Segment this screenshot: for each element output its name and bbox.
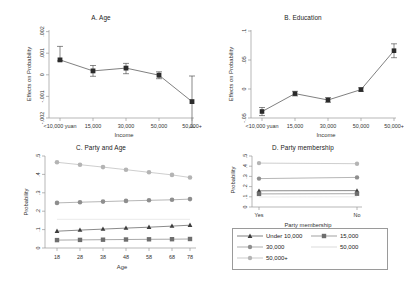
panel-d-xticks: Yes No — [255, 207, 361, 218]
figure-panel-grid: A. Age .002 .001 0 -.001 -.002 Effects o… — [0, 0, 404, 291]
panel-d-ytick-2: .2 — [242, 184, 248, 189]
panel-d-ytick-0: 0 — [242, 206, 248, 209]
legend-label-30000: 30,000 — [266, 244, 284, 250]
panel-a-xticks: <10,000 yuan 15,000 30,000 50,000 50,000… — [44, 118, 202, 129]
panel-b-ytick-0: -.05 — [241, 113, 247, 122]
panel-c-xtick-6: 78 — [187, 254, 193, 260]
panel-a-ylabel: Effects on Probability — [26, 47, 32, 101]
panel-b-xtick-4: 50,000+ — [384, 123, 404, 129]
panel-b-xticks: <10,000 yuan 15,000 30,000 50,000 50,000… — [246, 118, 404, 129]
panel-a-xtick-3: 50,000 — [151, 123, 168, 129]
legend-item-50000[interactable]: 50,000 — [311, 243, 383, 251]
panel-a-xtick-1: 15,000 — [85, 123, 102, 129]
panel-d-ytick-5: .5 — [242, 154, 248, 159]
legend-item-50000-plus[interactable]: 50,000+ — [237, 254, 309, 262]
panel-a-ytick-2: 0 — [39, 73, 45, 76]
panel-d-series-15000 — [257, 192, 359, 197]
panel-b-plot: .1 .05 0 -.05 Effects on Probability — [202, 14, 404, 142]
panel-c-series-15000 — [55, 237, 192, 243]
panel-b-yticks: .1 .05 0 -.05 — [241, 29, 251, 123]
legend-item-15000[interactable]: 15,000 — [311, 232, 383, 240]
panel-b-xtick-1: 15,000 — [287, 123, 304, 129]
panel-b-xtick-0: <10,000 yuan — [246, 123, 279, 129]
panel-d-series-50000plus — [257, 161, 359, 166]
legend-label-15000: 15,000 — [340, 233, 358, 239]
panel-c-ytick-4: .4 — [35, 172, 41, 177]
panel-b-xlabel: Income — [316, 132, 335, 138]
panel-c-xtick-4: 58 — [146, 254, 152, 260]
panel-b-errorbars — [259, 44, 397, 116]
panel-c-ytick-1: .1 — [35, 227, 41, 232]
legend-swatch-triangle-icon — [237, 232, 263, 240]
panel-a-ytick-1: -.001 — [39, 90, 45, 102]
panel-c-xticks: 18 28 38 48 58 68 78 — [54, 248, 193, 260]
panel-c-xtick-5: 68 — [169, 254, 175, 260]
legend-label-under-10000: Under 10,000 — [266, 233, 302, 239]
legend-item-under-10000[interactable]: Under 10,000 — [237, 232, 309, 240]
panel-d-party-membership: D. Party membership .5 .4 .3 .2 .1 0 Pro… — [202, 144, 404, 229]
panel-a-xtick-4: 50,000+ — [182, 123, 202, 129]
panel-c-xtick-1: 28 — [77, 254, 83, 260]
panel-b-ytick-3: .1 — [241, 29, 247, 34]
panel-d-ytick-1: .1 — [242, 195, 248, 200]
panel-a-age: A. Age .002 .001 0 -.001 -.002 Effects o… — [0, 14, 202, 142]
panel-c-plot: .5 .4 .3 .2 .1 0 Probability — [0, 144, 202, 286]
panel-b-xtick-3: 50,000 — [353, 123, 370, 129]
legend-swatch-plain-line-icon — [311, 243, 337, 251]
panel-a-xlabel: Income — [114, 132, 133, 138]
panel-c-xlabel: Age — [117, 264, 127, 270]
panel-d-xtick-0: Yes — [255, 212, 264, 218]
panel-c-ytick-2: .2 — [35, 209, 41, 214]
legend-label-50000-plus: 50,000+ — [266, 255, 288, 261]
panel-d-plot: .5 .4 .3 .2 .1 0 Probability — [202, 144, 404, 229]
panel-a-yticks: .002 .001 0 -.001 -.002 — [39, 26, 49, 124]
legend-item-30000[interactable]: 30,000 — [237, 243, 309, 251]
panel-c-xtick-3: 48 — [123, 254, 129, 260]
panel-c-ytick-3: .3 — [35, 191, 41, 196]
legend-swatch-light-circle-icon — [237, 254, 263, 262]
panel-c-ylabel: Probability — [23, 188, 29, 215]
panel-d-series-30000 — [257, 175, 359, 181]
panel-c-series-30000 — [55, 197, 193, 205]
panel-c-series-50000plus — [55, 160, 193, 180]
panel-c-yticks: .5 .4 .3 .2 .1 0 — [35, 154, 45, 250]
panel-d-ytick-4: .4 — [242, 164, 248, 169]
panel-a-plot: .002 .001 0 -.001 -.002 Effects on Proba… — [0, 14, 202, 142]
panel-b-ytick-1: 0 — [241, 88, 247, 91]
panel-b-markers — [260, 48, 397, 113]
panel-a-errorbars — [57, 46, 195, 127]
panel-b-ylabel: Effects on Probability — [228, 47, 234, 101]
panel-c-ytick-5: .5 — [35, 154, 41, 159]
panel-c-title: C. Party and Age — [0, 144, 202, 151]
panel-d-ytick-3: .3 — [242, 174, 248, 179]
panel-a-ytick-3: .001 — [39, 48, 45, 59]
legend-label-50000: 50,000 — [340, 244, 358, 250]
panel-b-xtick-2: 30,000 — [320, 123, 337, 129]
panel-c-xtick-0: 18 — [54, 254, 60, 260]
legend: Under 10,000 15,000 30,000 — [232, 228, 388, 270]
panel-a-title: A. Age — [0, 14, 202, 21]
panel-d-yticks: .5 .4 .3 .2 .1 0 — [242, 154, 252, 209]
panel-a-xtick-2: 30,000 — [118, 123, 135, 129]
panel-d-xtick-1: No — [354, 212, 361, 218]
panel-d-ylabel: Probability — [230, 166, 236, 193]
panel-d-series-under10000 — [257, 188, 360, 192]
legend-swatch-square-icon — [311, 232, 337, 240]
panel-c-series-under10000 — [55, 223, 193, 233]
legend-swatch-circle-icon — [237, 243, 263, 251]
panel-c-xtick-2: 38 — [100, 254, 106, 260]
panel-b-title: B. Education — [202, 14, 404, 21]
panel-b-education: B. Education .1 .05 0 -.05 Effects on Pr… — [202, 14, 404, 142]
panel-c-ytick-0: 0 — [35, 247, 41, 250]
panel-d-title: D. Party membership — [202, 144, 404, 151]
panel-a-ytick-4: .002 — [39, 26, 45, 36]
panel-b-ytick-2: .05 — [241, 56, 247, 64]
panel-c-party-and-age: C. Party and Age .5 .4 .3 .2 .1 0 Probab… — [0, 144, 202, 291]
panel-a-xtick-0: <10,000 yuan — [44, 123, 77, 129]
